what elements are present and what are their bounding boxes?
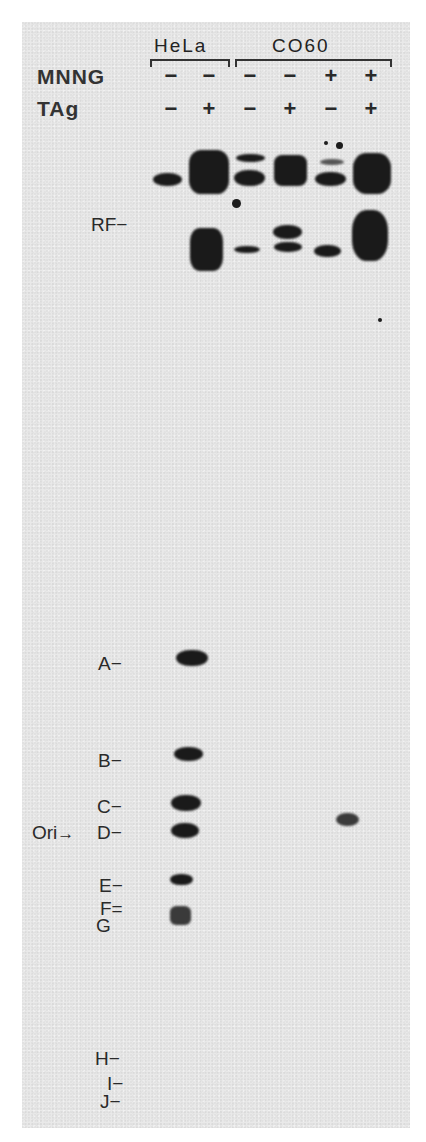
marker-band-fg: [170, 906, 191, 925]
spot-lane5-b: [336, 142, 343, 149]
band-lane4-upper: [274, 155, 307, 186]
band-lane2-upper: [189, 150, 229, 194]
spot-lane3: [232, 199, 241, 208]
marker-band-a: [176, 650, 208, 666]
tag-lane-5: −: [319, 98, 343, 120]
marker-label-d: D−: [97, 823, 122, 842]
marker-label-h: H−: [95, 1049, 120, 1068]
tag-lane-2: +: [197, 98, 221, 120]
band-lane5-rf: [314, 245, 341, 257]
marker-band-c: [171, 795, 201, 811]
arrow-right-icon: →: [57, 824, 74, 843]
band-lane6-upper: [353, 153, 391, 194]
spot-lane6: [378, 318, 382, 322]
band-lane4-rf-b: [274, 242, 302, 252]
band-lane3-upper-b: [234, 170, 265, 186]
marker-band-d: [171, 823, 199, 838]
band-lane5-upper-a: [320, 159, 344, 165]
row-label-tag: TAg: [37, 98, 79, 119]
rf-label: RF−: [91, 215, 127, 234]
marker-label-c: C−: [97, 797, 122, 816]
band-lane4-rf-a: [273, 225, 302, 239]
mnng-lane-6: +: [359, 65, 383, 87]
band-lane3-rf: [234, 246, 260, 253]
tag-lane-4: +: [278, 98, 302, 120]
marker-label-j: J−: [100, 1092, 121, 1111]
mnng-lane-1: −: [159, 65, 183, 87]
group-label-co60: CO60: [272, 36, 330, 55]
marker-label-e: E−: [99, 876, 123, 895]
marker-band-b: [174, 747, 203, 761]
tag-lane-6: +: [359, 98, 383, 120]
mnng-lane-5: +: [319, 65, 343, 87]
band-lane5-upper-b: [315, 172, 346, 186]
spot-lane5-a: [324, 141, 328, 145]
mnng-lane-3: −: [238, 65, 262, 87]
tag-lane-1: −: [159, 98, 183, 120]
tag-lane-3: −: [238, 98, 262, 120]
marker-band-e: [170, 874, 193, 885]
ori-label: Ori→: [32, 823, 74, 842]
band-lane5-ori: [336, 813, 359, 826]
marker-label-b: B−: [98, 751, 122, 770]
ori-text: Ori: [32, 822, 57, 843]
band-lane6-rf: [352, 210, 388, 261]
group-label-hela: HeLa: [154, 36, 207, 55]
band-lane2-rf: [190, 228, 223, 271]
mnng-lane-4: −: [278, 65, 302, 87]
mnng-lane-2: −: [197, 65, 221, 87]
row-label-mnng: MNNG: [37, 66, 105, 87]
band-lane1-upper: [153, 173, 182, 186]
band-lane3-upper-a: [236, 154, 265, 162]
marker-label-a: A−: [98, 654, 122, 673]
marker-label-g: G: [96, 916, 111, 935]
